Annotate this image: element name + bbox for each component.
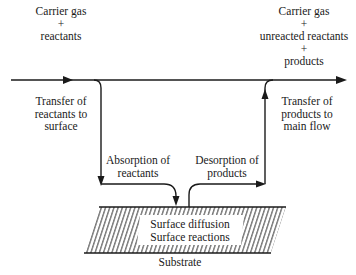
step-label-line: reactants to: [35, 108, 88, 121]
step-label-line: Absorption of: [106, 154, 170, 167]
outlet-arrow-icon: [336, 76, 347, 84]
up-arrow-icon: [262, 89, 269, 99]
step-label-line: Transfer of: [281, 95, 332, 108]
cvd-process-diagram: Carrier gas + reactants Carrier gas + un…: [0, 0, 356, 275]
absorption-arrow-icon: [173, 196, 180, 206]
outlet-label: Carrier gas + unreacted reactants + prod…: [260, 5, 348, 68]
substrate-inner-text: Surface diffusion Surface reactions: [150, 218, 230, 243]
substrate-label-text: Substrate: [159, 256, 202, 269]
step-label-line: reactants: [106, 167, 170, 180]
outlet-label-line: Carrier gas: [260, 5, 348, 18]
inlet-label-line: reactants: [36, 30, 87, 43]
absorption-path: [101, 184, 180, 206]
step-label-line: Transfer of: [35, 95, 88, 108]
flow-arrow-icon: [63, 76, 73, 84]
reactant-transfer-path: [94, 80, 105, 186]
outlet-label-line: unreacted reactants: [260, 30, 348, 43]
step-label-line: surface: [35, 120, 88, 133]
outlet-label-line: +: [260, 18, 348, 31]
inlet-label-line: +: [36, 18, 87, 31]
step-label-line: main flow: [281, 120, 332, 133]
substrate-label: Substrate: [159, 256, 202, 269]
surface-diffusion-text: Surface diffusion: [150, 218, 230, 231]
surface-reactions-text: Surface reactions: [150, 231, 230, 244]
desorption-label: Desorption of products: [195, 154, 259, 179]
absorption-label: Absorption of reactants: [106, 154, 170, 179]
step-label-line: Desorption of: [195, 154, 259, 167]
main-flow-line: [11, 76, 347, 84]
transfer-in-label: Transfer of reactants to surface: [35, 95, 88, 133]
inlet-label-line: Carrier gas: [36, 5, 87, 18]
step-label-line: products to: [281, 108, 332, 121]
step-label-line: products: [195, 167, 259, 180]
transfer-out-label: Transfer of products to main flow: [281, 95, 332, 133]
outlet-label-line: +: [260, 43, 348, 56]
outlet-label-line: products: [260, 55, 348, 68]
product-transfer-path: [262, 80, 274, 184]
desorption-path: [189, 181, 266, 208]
inlet-label: Carrier gas + reactants: [36, 5, 87, 43]
